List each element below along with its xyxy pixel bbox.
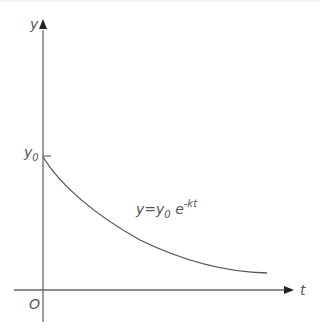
- x-axis-label: t: [300, 282, 306, 298]
- y0-label: y0: [24, 144, 39, 160]
- origin-label: O: [29, 296, 40, 312]
- decay-plot: [0, 0, 320, 336]
- equation-base: e: [175, 201, 184, 217]
- equation-lhs: y=y: [136, 201, 164, 217]
- y-axis-arrow-icon: [39, 19, 47, 29]
- equation-label: y=y0 e-kt: [136, 201, 197, 217]
- equation-subscript: 0: [164, 209, 170, 220]
- x-axis-arrow-icon: [284, 286, 294, 294]
- y0-subscript: 0: [32, 152, 38, 163]
- equation-exponent: -kt: [184, 198, 197, 209]
- y-axis-label: y: [30, 16, 38, 32]
